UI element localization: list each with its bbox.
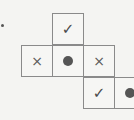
- grid-cell-r0-c1[interactable]: ✓: [52, 13, 84, 45]
- dot-icon: [63, 56, 73, 66]
- grid-cell-r2-c3[interactable]: [114, 77, 134, 109]
- cross-icon: ×: [31, 54, 43, 68]
- grid-cell-r1-c2[interactable]: ×: [83, 45, 115, 77]
- stray-dot-mark: [1, 24, 4, 27]
- check-icon: ✓: [62, 22, 75, 37]
- dot-icon: [125, 88, 134, 98]
- grid-cell-r2-c2[interactable]: ✓: [83, 77, 115, 109]
- check-icon: ✓: [93, 86, 106, 101]
- grid-cell-r1-c1[interactable]: [52, 45, 84, 77]
- grid-cell-r1-c0[interactable]: ×: [21, 45, 53, 77]
- cross-icon: ×: [93, 54, 105, 68]
